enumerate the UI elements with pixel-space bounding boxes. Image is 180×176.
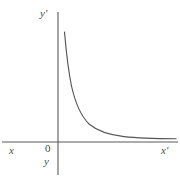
x-axis-label: x (9, 145, 14, 156)
y-axis-label: y (44, 156, 49, 167)
hyperbola-curve (65, 32, 177, 139)
x-prime-axis-label: x′ (161, 145, 168, 156)
graph-figure: y′ x′ x y 0 (0, 0, 180, 176)
origin-label: 0 (45, 143, 51, 154)
graph-canvas (0, 0, 180, 176)
y-prime-axis-label: y′ (40, 8, 47, 19)
